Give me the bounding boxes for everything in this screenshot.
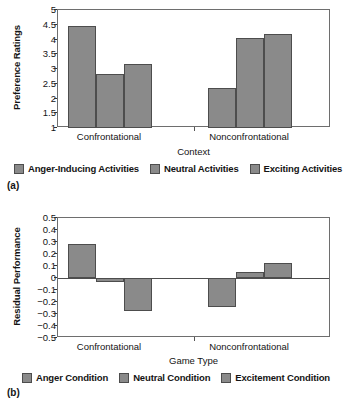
bar-a-g0-s2 [124,64,152,128]
legend-item: Exciting Activities [250,163,343,174]
y-tick-label: −0.5 [0,332,59,343]
y-tick-label: 0.4 [0,224,59,235]
y-tick-label: 2.5 [0,77,59,88]
panel-a-figure: Preference Ratings 11.522.533.544.55 Con… [0,0,361,198]
y-tick-label: −0.3 [0,308,59,319]
y-tick-label: 1.5 [0,107,59,118]
y-tick-label: 0.3 [0,236,59,247]
bar-a-g1-s2 [264,34,292,128]
panel-a-tag: (a) [7,180,19,191]
legend-item: Anger Condition [22,372,108,383]
axis-center-tick [194,127,195,131]
y-tick-label: 3.5 [0,48,59,59]
category-label: Nonconfrontational [209,341,289,352]
panel-b-figure: Residual Performance 0.50.40.30.20.10−0.… [0,197,361,395]
y-tick-label: 0.5 [0,212,59,223]
legend-label: Neutral Activities [164,163,239,174]
axis-center-tick [194,337,195,341]
y-tick-label: −0.4 [0,320,59,331]
panel-b-plot-area [57,217,330,337]
panel-b-x-axis-label: Game Type [169,355,218,366]
y-tick-label: 0.1 [0,260,59,271]
legend-swatch-icon [250,164,260,174]
legend-item: Excitement Condition [221,372,330,383]
y-tick-mark [54,127,57,128]
y-tick-label: 1 [0,122,59,133]
legend-swatch-icon [150,164,160,174]
legend-label: Anger-Inducing Activities [28,163,139,174]
bar-a-g0-s0 [68,26,96,128]
legend-label: Excitement Condition [235,372,330,383]
panel-a-plot-area [57,9,330,127]
bar-a-g1-s1 [236,38,264,128]
y-tick-label: −0.2 [0,296,59,307]
bar-b-g0-s2 [124,278,152,311]
legend-item: Neutral Condition [119,372,210,383]
y-tick-label: 0 [0,272,59,283]
bar-b-g0-s0 [68,244,96,278]
category-label: Confrontational [77,341,141,352]
panel-b-zero-line [58,278,329,279]
legend-swatch-icon [14,164,24,174]
panel-b-legend: Anger ConditionNeutral ConditionExciteme… [22,372,341,383]
panel-b-tag: (b) [7,387,20,398]
y-tick-label: 0.2 [0,248,59,259]
legend-swatch-icon [22,373,32,383]
y-tick-label: 4 [0,33,59,44]
panel-a-legend: Anger-Inducing ActivitiesNeutral Activit… [14,163,353,174]
legend-swatch-icon [221,373,231,383]
y-tick-label: 4.5 [0,18,59,29]
legend-item: Neutral Activities [150,163,239,174]
bar-b-g1-s0 [208,278,236,307]
y-tick-label: −0.1 [0,284,59,295]
legend-label: Anger Condition [36,372,108,383]
legend-swatch-icon [119,373,129,383]
y-tick-label: 2 [0,92,59,103]
legend-item: Anger-Inducing Activities [14,163,139,174]
category-label: Confrontational [77,131,141,142]
legend-label: Neutral Condition [133,372,210,383]
panel-a-x-axis-label: Context [177,146,210,157]
category-label: Nonconfrontational [209,131,289,142]
bar-b-g1-s2 [264,263,292,278]
bar-a-g0-s1 [96,74,124,128]
y-tick-mark [54,337,57,338]
y-tick-label: 5 [0,4,59,15]
bar-a-g1-s0 [208,88,236,128]
y-tick-label: 3 [0,63,59,74]
legend-label: Exciting Activities [264,163,343,174]
